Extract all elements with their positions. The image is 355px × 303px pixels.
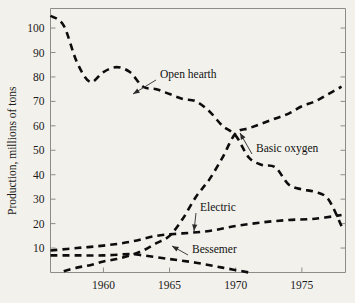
series-label-electric: Electric xyxy=(200,201,236,213)
y-tick-label: 10 xyxy=(33,242,45,254)
series-label-bessemer: Bessemer xyxy=(192,243,237,255)
y-tick-label: 40 xyxy=(33,169,45,181)
y-axis-title: Production, millions of tons xyxy=(6,86,19,215)
y-tick-label: 70 xyxy=(33,95,45,107)
y-tick-label: 100 xyxy=(27,22,45,34)
x-tick-label: 1970 xyxy=(224,279,247,291)
chart-figure: 102030405060708090100 1960196519701975 P… xyxy=(0,0,355,303)
x-tick-label: 1960 xyxy=(92,279,115,291)
y-tick-label: 90 xyxy=(33,47,45,59)
series-label-basic-oxygen: Basic oxygen xyxy=(256,142,319,155)
series-label-open-hearth: Open hearth xyxy=(160,68,217,81)
line-chart: 102030405060708090100 1960196519701975 P… xyxy=(0,0,355,303)
x-tick-label: 1965 xyxy=(158,279,181,291)
x-tick-label: 1975 xyxy=(290,279,313,291)
y-tick-label: 80 xyxy=(33,71,45,83)
y-tick-label: 20 xyxy=(33,218,45,230)
y-tick-label: 30 xyxy=(33,193,45,205)
y-tick-label: 60 xyxy=(33,120,45,132)
y-tick-label: 50 xyxy=(33,144,45,156)
